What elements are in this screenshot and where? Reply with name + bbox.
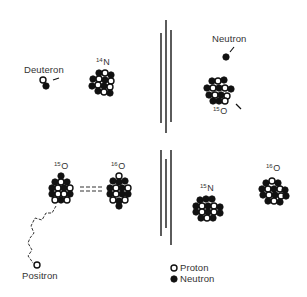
o16-left-symbol: O xyxy=(118,161,125,171)
o15-label-top: 15O xyxy=(213,106,227,116)
n15-nucleus xyxy=(193,196,223,221)
neutron-label: Neutron xyxy=(212,33,247,44)
o15-bottom-mass: 15 xyxy=(54,161,61,167)
legend-icons xyxy=(171,265,177,282)
o15-nucleus-top xyxy=(204,77,241,109)
diagram-canvas: Deuteron 14N Neutron 15O 15O 16O Positro… xyxy=(0,0,307,297)
o15-top-mass: 15 xyxy=(213,106,220,112)
deuteron-particle xyxy=(40,77,59,89)
neutron-particle xyxy=(223,47,234,60)
diagram-graphics xyxy=(0,0,307,297)
divider-lines-top xyxy=(161,20,171,133)
o15-top-symbol: O xyxy=(220,106,227,116)
o16-label-left: 16O xyxy=(111,161,125,171)
equivalence-dashes xyxy=(80,187,102,191)
n15-symbol: N xyxy=(207,183,214,193)
o16-nucleus-right xyxy=(259,178,289,205)
o16-right-symbol: O xyxy=(273,163,280,173)
o16-right-mass: 16 xyxy=(266,163,273,169)
n14-mass: 14 xyxy=(96,57,103,63)
o16-label-right: 16O xyxy=(266,163,280,173)
positron-label: Positron xyxy=(22,270,58,281)
n14-symbol: N xyxy=(103,57,110,67)
o15-label-bottom: 15O xyxy=(54,161,68,171)
divider-lines-bottom xyxy=(161,150,171,245)
o15-nucleus-bottom xyxy=(49,173,73,203)
o15-bottom-symbol: O xyxy=(61,161,68,171)
n14-label: 14N xyxy=(96,57,110,67)
n15-label: 15N xyxy=(200,183,214,193)
o16-nucleus-left xyxy=(107,173,131,209)
n14-nucleus xyxy=(89,70,114,96)
o16-left-mass: 16 xyxy=(111,161,118,167)
n15-mass: 15 xyxy=(200,183,207,189)
positron-path xyxy=(28,206,56,268)
legend-neutron-label: Neutron xyxy=(180,273,215,284)
deuteron-label: Deuteron xyxy=(24,64,64,75)
legend-proton-label: Proton xyxy=(180,262,209,273)
